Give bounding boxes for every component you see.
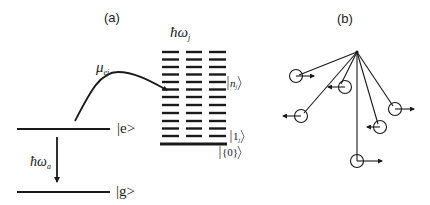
coupling-curve-arrow [75, 72, 167, 121]
pendulum-bobs [290, 70, 402, 168]
excited-level-label: |e> [117, 120, 135, 136]
transition-energy-label: ħωa [30, 154, 51, 171]
svg-text:nj: nj [230, 77, 238, 90]
two-panel-diagram: (a) |e> |g> ħωa μej ħωj [0, 0, 430, 205]
ket-1-j: 1j [231, 130, 244, 143]
panel-a-label: (a) [104, 10, 120, 25]
panel-b-label: (b) [337, 11, 353, 26]
panel-a: (a) |e> |g> ħωa μej ħωj [17, 10, 244, 199]
oscillator-level-grid [162, 52, 226, 136]
coupling-label: μej [95, 59, 110, 77]
ket-0: {0} [220, 146, 241, 159]
panel-b: (b) [283, 11, 414, 168]
svg-text:1j: 1j [233, 130, 241, 143]
svg-text:{0}: {0} [222, 146, 238, 158]
velocity-arrows [283, 76, 414, 161]
ground-level-label: |g> [116, 183, 135, 199]
pendulum-strings [299, 52, 393, 161]
oscillator-bank-label: ħωj [170, 24, 191, 42]
ket-n-j: nj [228, 76, 241, 90]
